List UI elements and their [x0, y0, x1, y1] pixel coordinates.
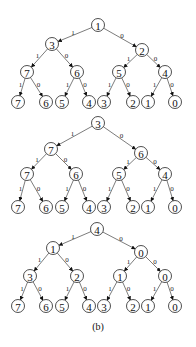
node-label: 3: [101, 202, 107, 214]
node-label: 0: [172, 202, 178, 214]
node-label: 4: [86, 301, 92, 313]
leaf-node: 1: [142, 96, 155, 109]
tree-node: 6: [70, 168, 83, 181]
edge-label: 0: [65, 256, 69, 264]
edge-label: 0: [153, 258, 157, 266]
tree-node: 5: [113, 168, 126, 181]
node-label: 6: [138, 148, 144, 160]
node-label: 6: [43, 301, 49, 313]
node-label: 4: [86, 202, 92, 214]
edge-label: 1: [66, 285, 70, 293]
tree-node: 4: [159, 66, 172, 79]
leaf-node: 3: [98, 96, 111, 109]
edge-label: 0: [83, 81, 87, 89]
node-label: 5: [116, 67, 122, 79]
edge-label: 0: [127, 285, 131, 293]
tree-diagram: 1010101010101010101010101010101010101010…: [0, 0, 196, 347]
node-label: 3: [101, 301, 107, 313]
node-label: 0: [162, 271, 168, 283]
edge-label: 1: [71, 29, 75, 37]
node-label: 5: [59, 202, 65, 214]
tree-node: 6: [71, 66, 84, 79]
tree-node: 1: [114, 270, 127, 283]
edge-label: 0: [126, 185, 130, 193]
edge-label: 1: [35, 156, 39, 164]
leaf-node: 0: [169, 96, 182, 109]
node-label: 7: [15, 202, 21, 214]
node-label: 5: [59, 301, 65, 313]
node-label: 0: [172, 97, 178, 109]
tree-edge: [59, 232, 91, 246]
node-label: 1: [145, 202, 151, 214]
leaf-node: 5: [56, 96, 69, 109]
tree-node: 0: [135, 246, 148, 259]
edge-label: 0: [83, 185, 87, 193]
leaf-node: 6: [40, 201, 53, 214]
edge-label: 1: [127, 55, 131, 63]
tree-node: 6: [135, 147, 148, 160]
tree-node: 4: [159, 168, 172, 181]
node-label: 4: [162, 169, 168, 181]
leaf-node: 6: [40, 96, 53, 109]
edge-label: 0: [120, 132, 124, 140]
node-label: 3: [101, 97, 107, 109]
leaf-node: 1: [142, 300, 155, 313]
node-label: 2: [130, 97, 136, 109]
edge-label: 1: [127, 258, 131, 266]
tree-edge: [31, 49, 47, 67]
edge-label: 1: [19, 185, 23, 193]
leaf-node: 7: [12, 201, 25, 214]
node-label: 1: [145, 97, 151, 109]
edge-label: 1: [19, 81, 23, 89]
edge-label: 0: [37, 185, 41, 193]
node-label: 1: [50, 243, 56, 255]
node-label: 7: [15, 301, 21, 313]
node-label: 3: [95, 118, 101, 130]
tree-node: 5: [113, 66, 126, 79]
node-label: 3: [49, 39, 55, 51]
tree-edge: [32, 154, 47, 170]
tree-node: 3: [24, 270, 37, 283]
leaf-node: 7: [12, 300, 25, 313]
node-label: 2: [130, 202, 136, 214]
node-label: 1: [117, 271, 123, 283]
leaf-node: 4: [83, 96, 96, 109]
tree-edge: [124, 54, 138, 67]
edge-label: 1: [153, 185, 157, 193]
node-label: 2: [130, 301, 136, 313]
edge-label: 0: [83, 285, 87, 293]
edge-label: 1: [71, 130, 75, 138]
edge-label: 0: [170, 81, 174, 89]
edge-label: 0: [120, 32, 124, 40]
edge-label: 0: [64, 156, 68, 164]
leaf-node: 2: [127, 96, 140, 109]
node-label: 1: [145, 301, 151, 313]
leaf-node: 0: [169, 300, 182, 313]
tree-edge: [34, 253, 49, 271]
node-label: 1: [95, 20, 101, 32]
leaf-node: 5: [56, 201, 69, 214]
node-label: 6: [74, 67, 80, 79]
leaf-node: 4: [83, 201, 96, 214]
leaf-node: 1: [142, 201, 155, 214]
tree-node: 7: [21, 66, 34, 79]
edge-label: 1: [65, 185, 69, 193]
tree-edge: [57, 126, 93, 146]
node-label: 4: [162, 67, 168, 79]
node-label: 7: [48, 144, 54, 156]
edge-label: 1: [108, 81, 112, 89]
edge-label: 1: [38, 256, 42, 264]
edge-label: 0: [119, 235, 123, 243]
node-label: 7: [24, 67, 30, 79]
node-label: 7: [24, 169, 30, 181]
leaf-node: 2: [127, 201, 140, 214]
leaf-node: 0: [169, 201, 182, 214]
node-label: 6: [43, 202, 49, 214]
edge-label: 1: [71, 233, 75, 241]
tree-node: 3: [46, 38, 59, 51]
leaf-node: 5: [56, 300, 69, 313]
node-label: 6: [43, 97, 49, 109]
node-label: 4: [94, 224, 100, 236]
node-label: 7: [15, 97, 21, 109]
edge-label: 1: [153, 285, 157, 293]
